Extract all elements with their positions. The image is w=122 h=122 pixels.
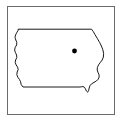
location-marker-dot[interactable]	[72, 49, 77, 54]
iowa-locator-map	[0, 0, 122, 122]
map-canvas	[0, 0, 122, 122]
iowa-state-outline	[15, 29, 104, 92]
